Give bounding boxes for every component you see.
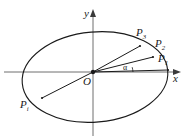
origin-point bbox=[91, 70, 95, 74]
point-marker-p2 bbox=[152, 56, 154, 58]
ellipse-geometry-figure: y x O α P1 P2 P3 Pi bbox=[0, 0, 187, 140]
point-label-pi-sub: i bbox=[27, 105, 29, 112]
origin-label: O bbox=[83, 76, 91, 87]
point-label-pi-base: P bbox=[20, 98, 27, 110]
point-label-p3-base: P bbox=[136, 26, 143, 38]
point-label-pi: Pi bbox=[20, 99, 29, 113]
point-label-p2-sub: 2 bbox=[162, 44, 165, 51]
point-label-p3: P3 bbox=[136, 27, 146, 41]
y-axis-label: y bbox=[84, 8, 89, 19]
point-label-p1: P1 bbox=[158, 53, 168, 67]
y-axis-arrowhead bbox=[90, 9, 96, 17]
point-label-p1-sub: 1 bbox=[165, 59, 168, 66]
point-label-p1-base: P bbox=[158, 52, 165, 64]
ray-to-p3 bbox=[93, 46, 140, 72]
x-axis-label: x bbox=[173, 73, 178, 84]
point-marker-p1 bbox=[167, 69, 169, 71]
angle-label: α bbox=[123, 64, 127, 72]
point-marker-pi bbox=[41, 97, 43, 99]
point-marker-p3 bbox=[139, 45, 141, 47]
point-label-p2: P2 bbox=[155, 38, 165, 52]
point-label-p2-base: P bbox=[155, 37, 162, 49]
diagram-canvas bbox=[0, 0, 187, 140]
ellipse-curve bbox=[18, 26, 171, 128]
point-label-p3-sub: 3 bbox=[143, 33, 146, 40]
